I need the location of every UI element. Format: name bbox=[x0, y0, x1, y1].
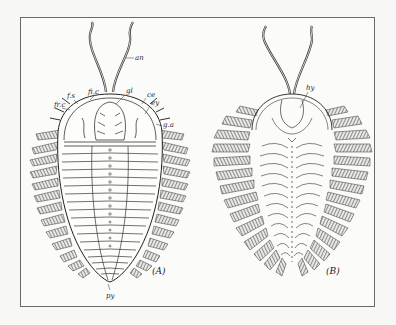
panel-a-caption: (A) bbox=[152, 266, 166, 276]
label-fixed-cheek: fi.c bbox=[87, 88, 99, 96]
label-antenna: an bbox=[135, 54, 144, 62]
trilobite-figure: an gl ce ey g.a fi.c f.s fr.c py (A) bbox=[0, 0, 396, 325]
label-eye: ey bbox=[151, 99, 160, 107]
label-free-cheek: fr.c bbox=[53, 101, 65, 109]
panel-b-drawing bbox=[212, 26, 372, 276]
label-facial-suture: f.s bbox=[66, 92, 76, 100]
panel-b-caption: (B) bbox=[326, 266, 340, 276]
label-genal-angle: g.a bbox=[163, 121, 174, 129]
panel-a-drawing bbox=[30, 22, 190, 290]
label-glabella: gl bbox=[126, 87, 133, 95]
label-hypostome: hy bbox=[306, 84, 316, 92]
label-pygidium: py bbox=[106, 292, 115, 300]
label-cheek: ce bbox=[147, 91, 155, 99]
